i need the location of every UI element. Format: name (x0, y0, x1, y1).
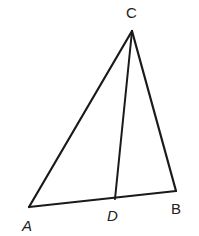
point-label-d: D (107, 208, 118, 223)
triangle-diagram: C A D B (0, 0, 199, 236)
triangle-figure (0, 0, 199, 236)
segment-cb (132, 31, 176, 191)
vertex-label-a: A (22, 218, 32, 233)
segment-ab (29, 191, 176, 207)
vertex-label-c: C (126, 5, 137, 20)
vertex-label-b: B (171, 201, 181, 216)
